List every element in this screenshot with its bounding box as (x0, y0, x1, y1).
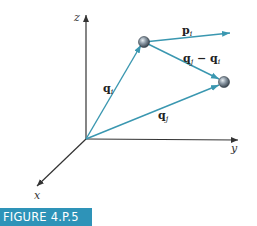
y-axis-label: y (230, 142, 238, 155)
vector-q-i (86, 45, 141, 139)
vector-diagram: z y x qi qj pi qj − qi (0, 0, 257, 226)
y-axis (86, 139, 238, 140)
figure-caption: FIGURE 4.P.5 (0, 208, 92, 226)
label-q-j: qj (158, 109, 169, 123)
label-q-i: qi (103, 82, 114, 96)
x-axis-label: x (34, 189, 41, 202)
z-axis-label: z (73, 11, 80, 24)
x-axis (37, 139, 86, 186)
particle-i (139, 37, 150, 48)
particle-j (219, 77, 230, 88)
label-qj-minus-qi: qj − qi (183, 52, 221, 66)
label-p-i: pi (182, 24, 193, 38)
